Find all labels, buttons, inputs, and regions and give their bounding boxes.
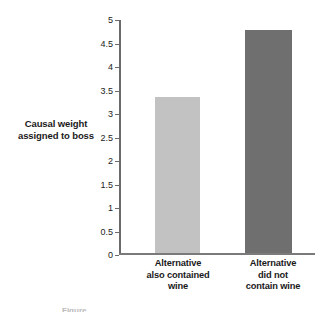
y-axis-line	[119, 20, 121, 255]
y-tick-label: 1.5	[100, 180, 113, 189]
bar-alternative-also-contained-wine	[155, 97, 200, 254]
y-axis-label: Causal weight assigned to boss	[4, 118, 108, 142]
y-tick-label: 0	[108, 251, 113, 260]
y-tick-mark	[115, 20, 119, 21]
y-tick-label: 0.5	[100, 227, 113, 236]
y-tick-mark	[115, 138, 119, 139]
category-0-line-2: also contained	[122, 270, 234, 282]
category-0-line-3: wine	[122, 281, 234, 293]
y-tick-label: 3.5	[100, 86, 113, 95]
category-0-line-1: Alternative	[122, 258, 234, 270]
y-tick-mark	[115, 114, 119, 115]
y-tick-label: 1	[108, 204, 113, 213]
y-tick-mark	[115, 255, 119, 256]
bar-chart: Causal weight assigned to boss 00.511.52…	[0, 0, 324, 312]
y-tick-mark	[115, 44, 119, 45]
y-tick-label: 5	[108, 16, 113, 25]
y-tick-mark	[115, 67, 119, 68]
plot-area: 00.511.522.533.544.55	[119, 18, 316, 255]
x-axis-category-label-0: Alternative also contained wine	[122, 258, 234, 293]
x-axis-category-label-1: Alternative did not contain wine	[223, 258, 323, 293]
y-tick-label: 4	[108, 63, 113, 72]
y-tick-mark	[115, 232, 119, 233]
y-tick-mark	[115, 91, 119, 92]
category-1-line-1: Alternative	[223, 258, 323, 270]
category-1-line-3: contain wine	[223, 281, 323, 293]
y-tick-mark	[115, 208, 119, 209]
y-axis-label-line-1: Causal weight	[4, 118, 108, 130]
caption-fragment: Figure	[62, 306, 202, 312]
y-tick-label: 2	[108, 157, 113, 166]
category-1-line-2: did not	[223, 270, 323, 282]
x-axis-baseline	[119, 253, 315, 255]
y-tick-label: 3	[108, 110, 113, 119]
y-tick-mark	[115, 161, 119, 162]
y-axis-label-line-2: assigned to boss	[4, 130, 108, 142]
bar-alternative-did-not-contain-wine	[245, 30, 292, 253]
y-tick-mark	[115, 185, 119, 186]
y-tick-label: 4.5	[100, 39, 113, 48]
y-tick-label: 2.5	[100, 133, 113, 142]
